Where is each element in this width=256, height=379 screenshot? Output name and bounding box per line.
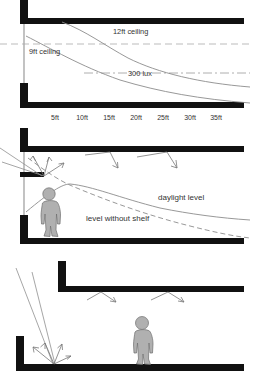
label-level-without-shelf: level without shelf [86, 214, 150, 223]
ceiling-and-upper-wall [20, 0, 244, 24]
axis-tick-30ft: 30ft [184, 114, 196, 121]
daylighting-diagram: 12ft ceiling 9ft ceiling 300 lux 5ft 10f… [0, 0, 256, 379]
label-9ft-ceiling: 9ft ceiling [29, 47, 60, 56]
diagram-canvas: 12ft ceiling 9ft ceiling 300 lux 5ft 10f… [0, 0, 256, 379]
incoming-sun-rays [0, 148, 44, 176]
ceiling-and-upper-wall [20, 128, 244, 152]
axis-tick-25ft: 25ft [157, 114, 169, 121]
ceiling-and-upper-wall [58, 261, 244, 292]
panel-light-shelf: daylight level level without shelf [0, 128, 250, 244]
ceiling-bounce-arrows [85, 152, 177, 168]
label-300-lux: 300 lux [128, 69, 152, 78]
panel-floor-bounce [16, 261, 244, 371]
axis-tick-5ft: 5ft [51, 114, 59, 121]
curve-12ft-ceiling [62, 22, 250, 87]
axis-tick-20ft: 20ft [130, 114, 142, 121]
floor-and-lower-wall [16, 336, 244, 371]
ceiling-bounce-arrows [87, 292, 184, 302]
axis-tick-15ft: 15ft [103, 114, 115, 121]
floor-and-lower-wall [20, 83, 244, 108]
label-12ft-ceiling: 12ft ceiling [113, 27, 148, 36]
occupant-figure [41, 188, 61, 237]
label-daylight-level: daylight level [158, 193, 204, 202]
occupant-figure [134, 317, 154, 365]
axis-tick-35ft: 35ft [210, 114, 222, 121]
curve-level-without-shelf [28, 158, 250, 238]
panel-daylight-decay: 12ft ceiling 9ft ceiling 300 lux 5ft 10f… [0, 0, 252, 121]
axis-tick-10ft: 10ft [76, 114, 88, 121]
